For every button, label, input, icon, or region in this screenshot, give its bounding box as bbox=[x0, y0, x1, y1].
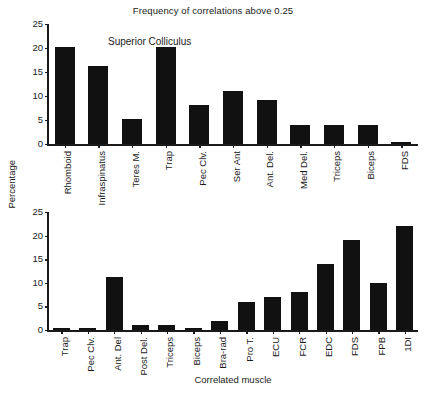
y-tick-label: 20 bbox=[21, 43, 43, 53]
x-tick-label: Ser Ant bbox=[237, 120, 247, 151]
y-tick-label: 25 bbox=[21, 19, 43, 29]
x-tick-label-text: Med Del. bbox=[299, 151, 309, 189]
x-tick-label-text: Bra-rad bbox=[219, 337, 229, 369]
x-tick-label: Post Del. bbox=[144, 298, 154, 337]
plot-area-top: 0510152025 RhomboidInfraspinatusTeres M.… bbox=[48, 24, 418, 144]
x-tick-label: Pec Clv. bbox=[91, 302, 101, 337]
x-tick bbox=[352, 330, 353, 334]
y-tick-label: 10 bbox=[21, 91, 43, 101]
x-tick bbox=[299, 330, 300, 334]
y-tick bbox=[45, 120, 49, 121]
y-tick-label: 10 bbox=[21, 278, 43, 288]
plot-area-bottom: 0510152025 TrapPec Clv.Ant. DelPost Del.… bbox=[48, 212, 418, 330]
x-tick bbox=[378, 330, 379, 334]
y-tick-label: 5 bbox=[21, 115, 43, 125]
x-tick-label-text: Pec Clv. bbox=[86, 337, 96, 372]
x-tick-label: Biceps bbox=[197, 308, 207, 337]
x-tick-label-text: Rhomboid bbox=[64, 151, 74, 194]
x-tick-label: Med Del. bbox=[304, 113, 314, 151]
y-tick-label: 15 bbox=[21, 254, 43, 264]
x-tick-label-text: EDC bbox=[324, 337, 334, 357]
x-tick-label-text: Pro T. bbox=[245, 337, 255, 362]
x-tick bbox=[334, 144, 335, 148]
x-tick bbox=[114, 330, 115, 334]
x-tick bbox=[326, 330, 327, 334]
x-tick-label: 1DI bbox=[408, 322, 418, 337]
x-tick bbox=[405, 330, 406, 334]
x-tick-label: Triceps bbox=[337, 120, 347, 151]
y-tick-label: 15 bbox=[21, 67, 43, 77]
x-tick-label: Biceps bbox=[371, 122, 381, 151]
x-tick-label: FPB bbox=[382, 319, 392, 337]
y-tick bbox=[45, 330, 49, 331]
x-axis-title: Correlated muscle bbox=[48, 374, 418, 385]
bar bbox=[396, 226, 413, 330]
y-axis-title: Percentage bbox=[6, 111, 17, 160]
y-tick bbox=[45, 24, 49, 25]
x-tick-label: FDS bbox=[405, 132, 415, 151]
x-tick bbox=[88, 330, 89, 334]
x-tick bbox=[141, 330, 142, 334]
x-tick bbox=[167, 330, 168, 334]
y-tick bbox=[45, 283, 49, 284]
x-tick-label: Rhomboid bbox=[68, 108, 78, 151]
x-tick-label-text: FDS bbox=[400, 151, 410, 170]
x-tick bbox=[246, 330, 247, 334]
bar bbox=[343, 240, 360, 330]
x-tick bbox=[368, 144, 369, 148]
x-tick-label-text: 1DI bbox=[404, 337, 414, 352]
x-tick bbox=[193, 330, 194, 334]
x-tick bbox=[166, 144, 167, 148]
x-tick-label: Pro T. bbox=[250, 312, 260, 337]
x-tick-label: Pec Clv. bbox=[203, 116, 213, 151]
y-tick bbox=[45, 212, 49, 213]
x-tick-label: FCR bbox=[303, 317, 313, 337]
x-tick-label-text: Post Del. bbox=[139, 337, 149, 376]
x-tick-label-text: Biceps bbox=[192, 337, 202, 366]
y-axis-line-bottom bbox=[47, 212, 49, 330]
y-tick bbox=[45, 144, 49, 145]
x-tick-label: EDC bbox=[329, 317, 339, 337]
x-tick-label: Trap bbox=[169, 132, 179, 151]
y-tick bbox=[45, 259, 49, 260]
x-tick bbox=[273, 330, 274, 334]
y-tick bbox=[45, 236, 49, 237]
y-tick-label: 5 bbox=[21, 302, 43, 312]
x-tick-label-text: Teres M. bbox=[131, 151, 141, 187]
y-tick bbox=[45, 306, 49, 307]
y-tick-label: 25 bbox=[21, 207, 43, 217]
y-axis-line-top bbox=[47, 24, 49, 144]
y-tick bbox=[45, 96, 49, 97]
y-tick bbox=[45, 48, 49, 49]
x-tick-label: Infraspinatus bbox=[102, 97, 112, 151]
x-tick-label-text: Ant. Del. bbox=[265, 151, 275, 187]
x-tick bbox=[98, 144, 99, 148]
x-tick-label-text: Ant. Del bbox=[113, 337, 123, 371]
panel-note-superior-colliculus: Superior Colliculus bbox=[108, 36, 191, 47]
x-tick-label: FDS bbox=[355, 318, 365, 337]
x-tick bbox=[401, 144, 402, 148]
y-tick-label: 20 bbox=[21, 231, 43, 241]
x-tick-label-text: FPB bbox=[377, 337, 387, 355]
x-tick bbox=[199, 144, 200, 148]
x-tick bbox=[132, 144, 133, 148]
x-tick-label-text: FDS bbox=[351, 337, 361, 356]
x-tick bbox=[220, 330, 221, 334]
y-tick-label: 0 bbox=[21, 139, 43, 149]
y-tick bbox=[45, 72, 49, 73]
x-tick-label-text: ECU bbox=[271, 337, 281, 357]
y-tick-label: 0 bbox=[21, 325, 43, 335]
x-tick-label: Bra-rad bbox=[223, 305, 233, 337]
x-tick-label-text: Triceps bbox=[166, 337, 176, 368]
chart-panel-motor-cortex: 0510152025 TrapPec Clv.Ant. DelPost Del.… bbox=[0, 196, 426, 396]
bar bbox=[156, 47, 176, 144]
x-tick bbox=[300, 144, 301, 148]
x-tick-label: Teres M. bbox=[136, 115, 146, 151]
figure-root: Frequency of correlations above 0.25 051… bbox=[0, 0, 426, 396]
x-tick-label-text: Ser Ant bbox=[232, 151, 242, 182]
x-tick-label: Triceps bbox=[170, 306, 180, 337]
x-tick-label: Trap bbox=[65, 318, 75, 337]
x-tick-label-text: Trap bbox=[60, 337, 70, 356]
x-tick-label-text: Biceps bbox=[366, 151, 376, 180]
chart-panel-superior-colliculus: 0510152025 RhomboidInfraspinatusTeres M.… bbox=[0, 0, 426, 205]
